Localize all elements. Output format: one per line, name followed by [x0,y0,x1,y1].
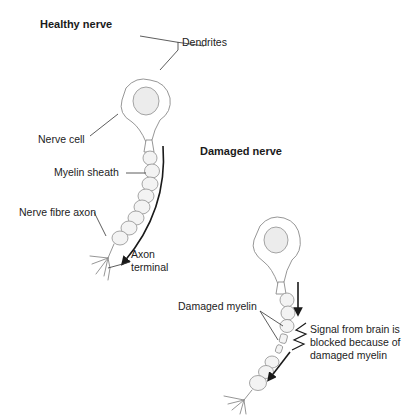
healthy-nerve-title: Healthy nerve [40,18,112,30]
label-damaged-myelin: Damaged myelin [178,300,257,313]
damaged-nerve-title: Damaged nerve [200,145,282,157]
label-nerve-fibre-axon: Nerve fibre axon [19,206,96,219]
healthy-neuron [70,36,205,280]
damaged-nucleus [264,227,288,253]
damaged-axon-terminal [224,390,252,414]
label-dendrites: Dendrites [182,36,227,49]
label-axon-terminal: Axon terminal [131,248,185,274]
damaged-neuron [204,178,330,414]
healthy-nucleus [133,87,159,115]
healthy-axon-terminal [90,244,114,280]
label-myelin-sheath: Myelin sheath [54,166,119,179]
label-nerve-cell: Nerve cell [38,133,85,146]
healthy-myelin-sheath [112,151,160,245]
label-signal-blocked: Signal from brain is blocked because of … [310,323,414,362]
